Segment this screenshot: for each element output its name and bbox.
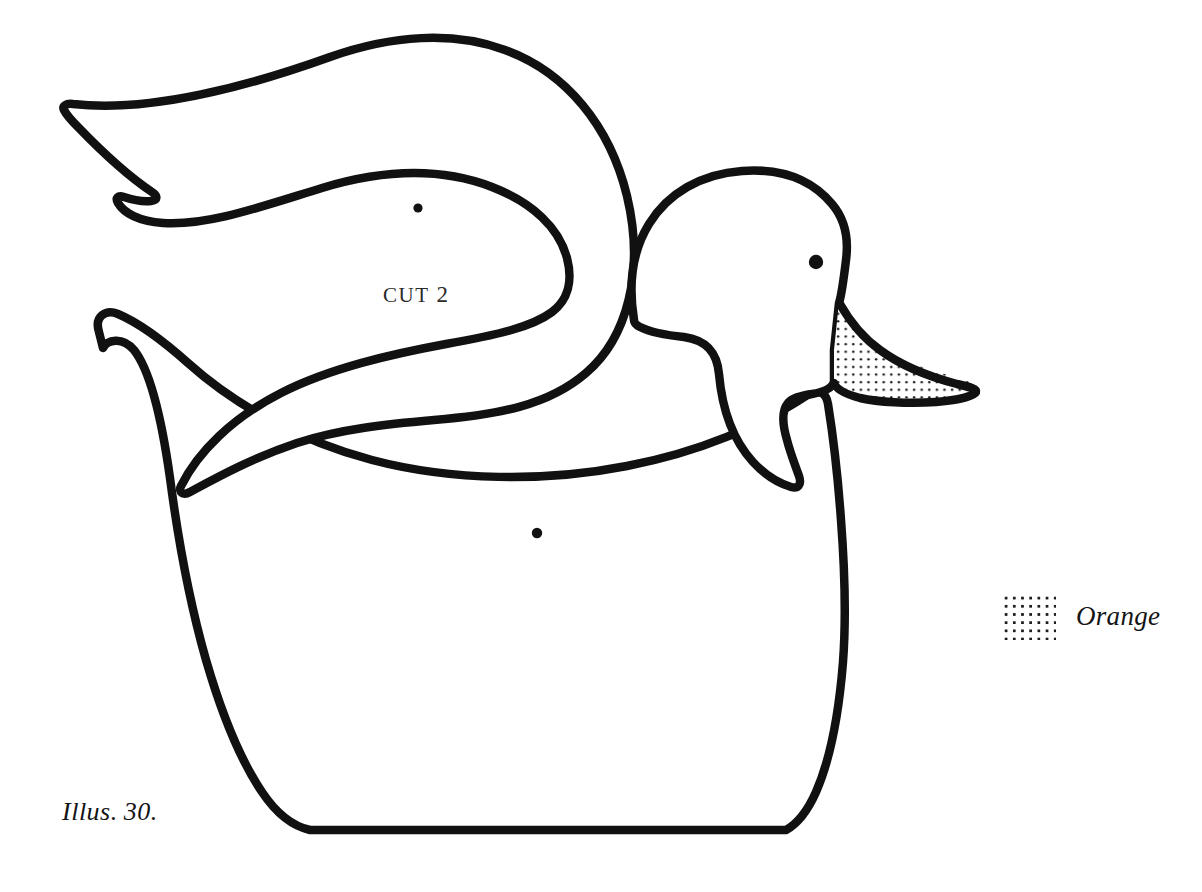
body-pivot-dot: [532, 528, 542, 538]
legend-label-orange: Orange: [1076, 601, 1160, 632]
color-legend: Orange: [1000, 592, 1160, 640]
wing-cut-number: 2: [437, 282, 450, 307]
duck-beak-part: [834, 302, 977, 403]
duck-pattern-figure: [0, 0, 1202, 892]
wing-cut-word: CUT: [383, 283, 430, 307]
duck-eye-dot: [809, 255, 823, 269]
figure-caption: Illus.30.: [62, 799, 158, 825]
duck-wing-part: [63, 38, 633, 494]
wing-pivot-dot: [413, 203, 422, 212]
wing-cut-label: CUT2: [383, 283, 449, 306]
figure-caption-word: Illus.: [62, 797, 118, 826]
illustration-page: CUT2 Illus.30. Orange: [0, 0, 1202, 892]
figure-caption-number: 30.: [124, 797, 158, 826]
legend-swatch-dotted: [1000, 592, 1056, 640]
duck-wing-outline: [63, 38, 633, 494]
